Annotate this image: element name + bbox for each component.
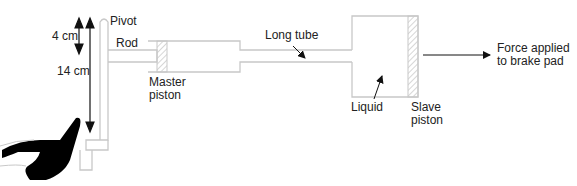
liquid-pointer (374, 76, 382, 99)
long-tube-pointer (293, 46, 305, 58)
slave-piston (408, 16, 418, 97)
dimension-4cm-label: 4 cm (52, 30, 78, 43)
foot-icon (0, 118, 81, 180)
dimension-14cm-label: 14 cm (57, 65, 90, 78)
rod-label: Rod (116, 37, 138, 50)
master-piston-label-2: piston (149, 89, 181, 102)
long-tube-label: Long tube (265, 29, 318, 42)
master-piston (157, 41, 167, 72)
liquid-label: Liquid (351, 101, 383, 114)
pivot-label: Pivot (110, 15, 137, 28)
force-label-2: to brake pad (497, 55, 564, 68)
slave-piston-label-2: piston (411, 114, 443, 127)
rod (108, 50, 157, 62)
pedal-lever (80, 19, 108, 170)
master-cylinder (148, 41, 352, 72)
